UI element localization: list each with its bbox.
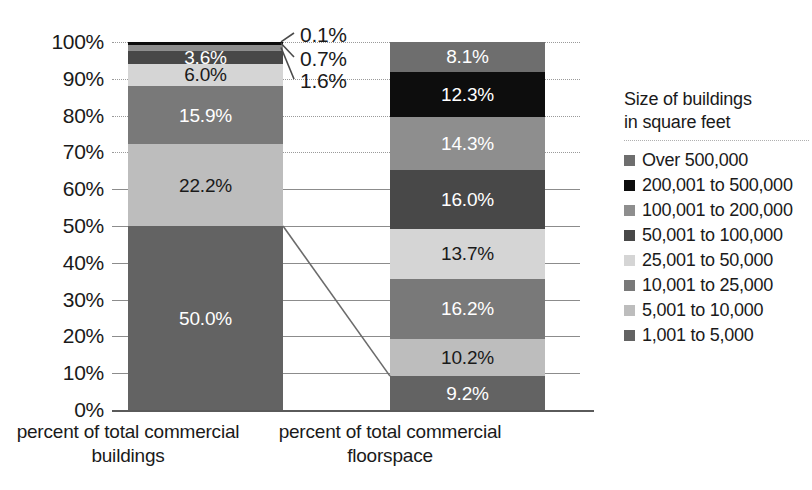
legend-item-label: 1,001 to 5,000 (642, 325, 754, 346)
legend-item[interactable]: 25,001 to 50,000 (624, 248, 809, 273)
y-axis-tick: 0% (8, 398, 104, 422)
bar-segment-label: 8.1% (446, 47, 489, 66)
bar-segment-label: 12.3% (441, 85, 494, 104)
bar-segment[interactable]: 8.1% (390, 42, 545, 72)
bar-segment-label: 16.2% (441, 299, 494, 318)
bar-segment-label: 16.0% (441, 190, 494, 209)
stacked-bar-floorspace[interactable]: 8.1%12.3%14.3%16.0%13.7%16.2%10.2%9.2% (390, 42, 545, 410)
y-axis-tick: 40% (8, 251, 104, 275)
bar-segment-label: 14.3% (441, 134, 494, 153)
legend-swatch-icon (624, 255, 635, 266)
bar-segment[interactable]: 10.2% (390, 339, 545, 377)
legend: Size of buildings in square feet Over 50… (624, 88, 809, 348)
y-axis-tick: 70% (8, 140, 104, 164)
y-axis-tick: 10% (8, 361, 104, 385)
bar-segment[interactable]: 13.7% (390, 229, 545, 279)
legend-item[interactable]: 5,001 to 10,000 (624, 298, 809, 323)
legend-swatch-icon (624, 305, 635, 316)
y-axis-tick: 30% (8, 288, 104, 312)
plot-area: 3.6%6.0%15.9%22.2%50.0% 8.1%12.3%14.3%16… (112, 42, 580, 410)
legend-swatch-icon (624, 280, 635, 291)
legend-item-label: Over 500,000 (642, 150, 748, 171)
y-axis-tick: 80% (8, 104, 104, 128)
legend-items: Over 500,000200,001 to 500,000100,001 to… (624, 148, 809, 348)
legend-item-label: 10,001 to 25,000 (642, 275, 773, 296)
bar-segment[interactable]: 6.0% (128, 64, 283, 86)
bar-segment[interactable]: 22.2% (128, 144, 283, 226)
legend-item-label: 200,001 to 500,000 (642, 175, 793, 196)
axis-baseline (112, 410, 594, 412)
bar-segment[interactable]: 14.3% (390, 117, 545, 170)
callout-label: 0.1% (300, 24, 347, 45)
x-axis-label-buildings: percent of total commercial buildings (13, 420, 243, 468)
legend-swatch-icon (624, 205, 635, 216)
y-axis-tick: 50% (8, 214, 104, 238)
bar-segment-label: 9.2% (446, 384, 489, 403)
legend-swatch-icon (624, 330, 635, 341)
legend-swatch-icon (624, 180, 635, 191)
bar-segment-label: 13.7% (441, 244, 494, 263)
bar-segment[interactable]: 16.0% (390, 170, 545, 229)
bar-segment[interactable]: 16.2% (390, 279, 545, 339)
bar-segment-label: 15.9% (179, 106, 232, 125)
legend-item-label: 5,001 to 10,000 (642, 300, 763, 321)
bar-segment[interactable]: 50.0% (128, 226, 283, 410)
callout-label: 0.7% (300, 48, 347, 69)
bar-segment[interactable]: 12.3% (390, 72, 545, 117)
y-axis-tick: 90% (8, 67, 104, 91)
y-axis: 0%10%20%30%40%50%60%70%80%90%100% (0, 0, 104, 490)
bar-segment-label: 50.0% (179, 309, 232, 328)
stacked-bar-buildings[interactable]: 3.6%6.0%15.9%22.2%50.0% (128, 42, 283, 410)
bar-segment[interactable]: 9.2% (390, 376, 545, 410)
y-axis-tick: 20% (8, 324, 104, 348)
legend-swatch-icon (624, 155, 635, 166)
bar-segment-label: 6.0% (184, 65, 227, 84)
legend-item[interactable]: 100,001 to 200,000 (624, 198, 809, 223)
bar-segment[interactable]: 15.9% (128, 86, 283, 145)
y-axis-tick: 100% (8, 30, 104, 54)
stacked-bar-chart: 0%10%20%30%40%50%60%70%80%90%100% 3.6%6.… (0, 0, 812, 490)
x-axis-label-floorspace: percent of total commercial floorspace (275, 420, 505, 468)
bar-segment[interactable]: 3.6% (128, 51, 283, 64)
legend-item-label: 100,001 to 200,000 (642, 200, 793, 221)
legend-item[interactable]: 10,001 to 25,000 (624, 273, 809, 298)
legend-item-label: 50,001 to 100,000 (642, 225, 783, 246)
legend-item[interactable]: 1,001 to 5,000 (624, 323, 809, 348)
legend-divider (624, 140, 809, 141)
legend-item-label: 25,001 to 50,000 (642, 250, 773, 271)
legend-item[interactable]: Over 500,000 (624, 148, 809, 173)
bar-segment-label: 22.2% (179, 176, 232, 195)
legend-title: Size of buildings in square feet (624, 88, 809, 135)
legend-item[interactable]: 200,001 to 500,000 (624, 173, 809, 198)
legend-item[interactable]: 50,001 to 100,000 (624, 223, 809, 248)
y-axis-tick: 60% (8, 177, 104, 201)
callout-label: 1.6% (300, 70, 347, 91)
legend-swatch-icon (624, 230, 635, 241)
bar-segment-label: 10.2% (441, 348, 494, 367)
